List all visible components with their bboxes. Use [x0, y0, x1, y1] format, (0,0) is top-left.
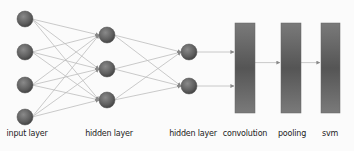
- svm-block: [321, 23, 340, 113]
- label-convolution: convolution: [223, 129, 267, 138]
- neuron-node: [181, 44, 197, 60]
- neuron-node: [99, 61, 115, 77]
- network-diagram: input layer hidden layer hidden layer co…: [0, 0, 354, 151]
- label-hidden-layer-1: hidden layer: [85, 129, 133, 138]
- neuron-node: [17, 77, 33, 93]
- label-input-layer: input layer: [7, 129, 48, 138]
- label-hidden-layer-2: hidden layer: [169, 129, 217, 138]
- blocks: [235, 23, 340, 113]
- edge: [32, 69, 99, 85]
- label-svm: svm: [322, 129, 338, 138]
- pooling-block: [281, 23, 301, 113]
- neuron-node: [17, 11, 33, 27]
- edge: [114, 52, 181, 69]
- neuron-node: [17, 109, 33, 125]
- edge: [114, 35, 181, 52]
- edge: [32, 35, 99, 85]
- neuron-node: [181, 78, 197, 94]
- edge: [114, 69, 181, 86]
- convolution-block: [235, 23, 255, 113]
- neuron-node: [99, 27, 115, 43]
- edge: [32, 100, 99, 117]
- neuron-node: [99, 92, 115, 108]
- edge: [32, 52, 99, 69]
- label-pooling: pooling: [278, 129, 306, 138]
- edge: [32, 19, 99, 69]
- connections: [32, 19, 320, 117]
- neuron-node: [17, 44, 33, 60]
- edge: [32, 35, 99, 52]
- edge: [32, 19, 99, 35]
